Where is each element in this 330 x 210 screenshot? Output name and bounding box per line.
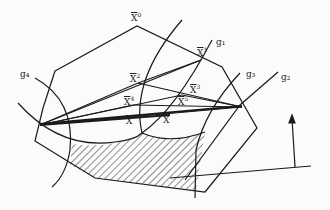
diagram-svg <box>0 0 330 210</box>
diagram: X0 X1 X2 X3 X4 X5 X X g₁ g₂ g₃ g₄ <box>0 0 330 210</box>
label-x3: X3 <box>190 84 200 95</box>
label-g1: g₁ <box>216 38 225 47</box>
label-x1: X1 <box>197 47 207 58</box>
label-x0: X0 <box>131 12 141 23</box>
curve-g4 <box>35 78 71 187</box>
label-x-bar-a: X <box>126 117 132 126</box>
label-g3: g₃ <box>246 70 255 79</box>
label-x2: X2 <box>130 73 140 84</box>
label-x5: X5 <box>178 96 188 107</box>
label-g4: g₄ <box>20 70 29 79</box>
label-x-bar-b: X <box>163 116 169 125</box>
label-g2: g₂ <box>281 73 290 82</box>
hatched-region <box>70 132 205 190</box>
label-x4: X4 <box>124 96 134 107</box>
